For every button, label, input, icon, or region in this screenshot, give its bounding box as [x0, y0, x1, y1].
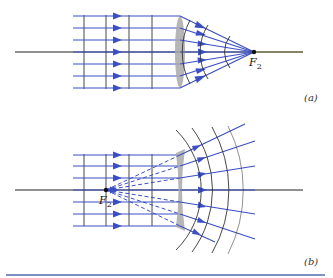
diverging-rays	[180, 124, 255, 242]
incoming-rays-a	[73, 16, 180, 88]
arrowheads-incoming-a	[113, 13, 122, 92]
lens-diagram: F2 (a)	[0, 0, 333, 278]
focal-point-b	[104, 188, 108, 192]
focal-point-a	[252, 50, 256, 54]
panel-label-a: (a)	[304, 92, 318, 103]
panel-label-b: (b)	[304, 256, 318, 267]
focal-label-b: F2	[98, 194, 112, 209]
panel-a: F2 (a)	[15, 13, 318, 104]
incoming-rays-b	[73, 155, 180, 226]
converging-rays	[180, 16, 254, 88]
focal-label-a: F2	[248, 56, 262, 71]
panel-b: F2 (b)	[15, 124, 318, 267]
